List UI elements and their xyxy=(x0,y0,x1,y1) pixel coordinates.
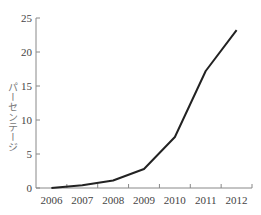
y-tick-label: 25 xyxy=(21,12,33,24)
x-tick-label: 2006 xyxy=(40,194,63,206)
y-tick-label: 5 xyxy=(27,148,33,160)
x-tick-label: 2010 xyxy=(164,194,187,206)
y-tick-label: 15 xyxy=(21,80,33,92)
x-tick-label: 2008 xyxy=(102,194,125,206)
x-tick-label: 2009 xyxy=(133,194,156,206)
y-tick-label: 10 xyxy=(21,114,33,126)
y-tick-label: 0 xyxy=(27,182,33,194)
y-axis-label: パーセンテージ xyxy=(7,82,18,152)
y-tick-label: 20 xyxy=(21,46,33,58)
line-chart: 0510152025 2006200720082009201020112012 … xyxy=(0,0,261,215)
x-tick-label: 2011 xyxy=(195,194,217,206)
y-axis: 0510152025 xyxy=(21,12,40,194)
series-line xyxy=(51,30,236,188)
x-tick-label: 2012 xyxy=(226,194,248,206)
x-tick-label: 2007 xyxy=(71,194,94,206)
